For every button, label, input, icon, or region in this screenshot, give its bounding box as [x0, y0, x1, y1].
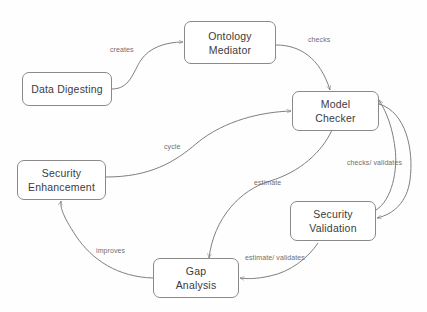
edge-label-estimate: estimate: [254, 179, 281, 186]
edge-improves: [61, 201, 153, 278]
node-label-line2: Enhancement: [28, 180, 95, 194]
edge-label-cycle: cycle: [164, 143, 180, 150]
node-security-validation[interactable]: Security Validation: [290, 201, 376, 241]
node-label-line1: Data Digesting: [31, 82, 103, 96]
node-label-line2: Mediator: [209, 43, 251, 57]
node-label-line1: Gap: [186, 264, 206, 278]
edge-label-improves: improves: [96, 247, 125, 254]
node-label-line1: Model: [321, 97, 351, 111]
edge-label-creates: creates: [110, 46, 134, 53]
node-label-line2: Checker: [315, 111, 356, 125]
node-label-line2: Validation: [309, 221, 356, 235]
edge-label-checks-validates: checks/ validates: [347, 159, 402, 166]
node-model-checker[interactable]: Model Checker: [292, 91, 379, 131]
node-gap-analysis[interactable]: Gap Analysis: [153, 258, 239, 298]
node-data-digesting[interactable]: Data Digesting: [22, 72, 112, 106]
node-label-line1: Security: [313, 207, 353, 221]
edge-checks: [276, 45, 330, 90]
node-label-line2: Analysis: [176, 278, 217, 292]
edge-label-estimate-validates: estimate/ validates: [245, 254, 305, 261]
edge-cycle: [106, 111, 291, 177]
diagram-canvas: Data Digesting Ontology Mediator Model C…: [0, 0, 427, 312]
node-label-line1: Security: [42, 166, 82, 180]
node-security-enhancement[interactable]: Security Enhancement: [17, 160, 106, 200]
node-ontology-mediator[interactable]: Ontology Mediator: [184, 21, 276, 64]
node-label-line1: Ontology: [208, 29, 252, 43]
edge-label-checks: checks: [308, 36, 330, 43]
